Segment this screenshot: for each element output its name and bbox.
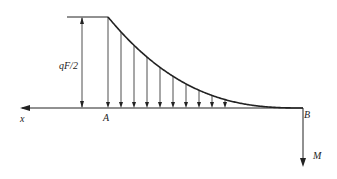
- load-arrowhead: [197, 102, 201, 108]
- load-arrowhead: [171, 102, 175, 108]
- moment-label: M: [312, 150, 322, 161]
- dimension-arrow-bottom: [80, 101, 84, 108]
- x-axis-label: x: [19, 113, 25, 124]
- load-arrowhead: [223, 102, 227, 108]
- load-arrowhead: [210, 102, 214, 108]
- x-axis-arrowhead: [20, 105, 30, 111]
- point-a-label: A: [102, 112, 110, 123]
- point-b-label: B: [304, 109, 310, 120]
- load-diagram: x A B M qF/2: [0, 0, 337, 179]
- load-arrowhead: [132, 102, 136, 108]
- moment-arrowhead: [300, 158, 306, 167]
- load-arrowhead: [184, 102, 188, 108]
- load-arrowhead: [119, 102, 123, 108]
- dimension-arrow-top: [80, 17, 84, 24]
- load-arrowhead: [158, 102, 162, 108]
- load-curve: [108, 17, 303, 108]
- load-arrowhead: [145, 102, 149, 108]
- magnitude-label: qF/2: [59, 60, 78, 71]
- load-arrowhead: [106, 102, 110, 108]
